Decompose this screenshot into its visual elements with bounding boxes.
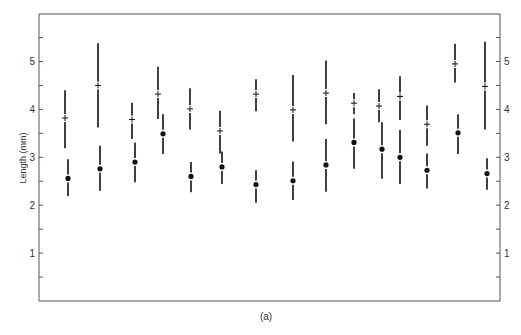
dot-point [290,162,295,200]
y-tick-labels-right: 12345 [504,56,510,259]
filled-circle-marker [290,178,295,183]
y-tick-labels-left: 12345 [29,56,35,259]
filled-circle-marker [424,168,429,173]
y-tick-label: 1 [29,248,35,259]
dot-point [455,114,460,154]
y-tick-label: 2 [29,200,35,211]
plus-point [351,93,357,114]
y-tick-label-right: 4 [504,104,510,115]
chart: 12345 12345 Length (mm) (a) [0,0,521,335]
plot-frame [39,14,500,301]
dot-point [379,122,384,179]
filled-circle-marker [160,131,165,136]
filled-circle-marker [323,162,328,167]
dot-point [65,159,70,196]
dot-point [397,130,402,184]
y-tick-label-right: 1 [504,248,510,259]
plus-point [62,90,68,148]
filled-circle-marker [219,164,224,169]
dot-point [323,139,328,192]
dot-point [188,162,193,192]
filled-circle-marker [397,155,402,160]
plus-point [323,61,329,125]
filled-circle-marker [379,147,384,152]
plus-point [397,76,403,120]
filled-circle-marker [65,176,70,181]
plus-point [253,79,259,111]
filled-circle-marker [455,130,460,135]
plus-point [187,88,193,129]
y-tick-label: 4 [29,104,35,115]
dot-point [253,170,258,203]
dot-point [160,114,165,154]
series-plus-markers [62,42,488,154]
plus-point [376,89,382,122]
plus-point [129,103,135,139]
y-tick-label: 3 [29,152,35,163]
plus-point [452,44,458,83]
filled-circle-marker [253,182,258,187]
dot-point [351,119,356,169]
plus-point [155,67,161,119]
plus-point [217,111,223,154]
y-tick-label-right: 3 [504,152,510,163]
filled-circle-marker [188,174,193,179]
plus-point [290,75,296,142]
filled-circle-marker [132,159,137,164]
y-tick-label: 5 [29,56,35,67]
filled-circle-marker [484,171,489,176]
y-ticks [39,38,500,277]
dot-point [132,142,137,182]
series-dot-markers [65,114,489,203]
dot-point [97,146,102,191]
filled-circle-marker [97,166,102,171]
figure-caption: (a) [260,311,272,322]
plus-point [424,106,430,146]
dot-point [424,153,429,188]
filled-circle-marker [351,140,356,145]
dot-point [484,158,489,190]
y-axis-label: Length (mm) [18,132,28,183]
dot-point [219,152,224,185]
plus-point [95,43,101,127]
y-tick-label-right: 5 [504,56,510,67]
plus-point [482,42,488,130]
y-tick-label-right: 2 [504,200,510,211]
